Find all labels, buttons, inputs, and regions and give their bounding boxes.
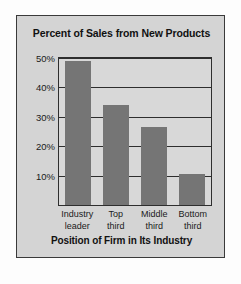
bar xyxy=(65,61,92,205)
x-axis-category-line: third xyxy=(97,221,136,233)
y-axis-tick-label: 40% xyxy=(36,82,55,93)
chart-figure: Percent of Sales from New Products 10%20… xyxy=(0,0,241,284)
x-axis-title: Position of Firm in Its Industry xyxy=(17,235,226,246)
bar xyxy=(179,174,206,205)
chart-title: Percent of Sales from New Products xyxy=(17,27,226,39)
x-axis-category-line: Industry xyxy=(58,209,97,221)
y-axis-tick-label: 30% xyxy=(36,111,55,122)
x-axis-category-line: Middle xyxy=(135,209,174,221)
y-axis-tick-label: 20% xyxy=(36,141,55,152)
y-axis-tick-label: 50% xyxy=(36,53,55,64)
x-axis-category-line: Top xyxy=(97,209,136,221)
gridline-50 xyxy=(59,58,211,59)
x-axis-category-line: Bottom xyxy=(174,209,213,221)
bar xyxy=(103,105,130,205)
x-axis-category-line: leader xyxy=(58,221,97,233)
x-axis-category-line: third xyxy=(135,221,174,233)
y-axis-tick-label: 10% xyxy=(36,170,55,181)
bar xyxy=(141,127,168,205)
plot-area: 10%20%30%40%50% xyxy=(58,57,212,206)
x-axis-category-line: third xyxy=(174,221,213,233)
chart-panel: Percent of Sales from New Products 10%20… xyxy=(16,15,225,258)
plot-inner: 10%20%30%40%50% xyxy=(59,58,211,205)
